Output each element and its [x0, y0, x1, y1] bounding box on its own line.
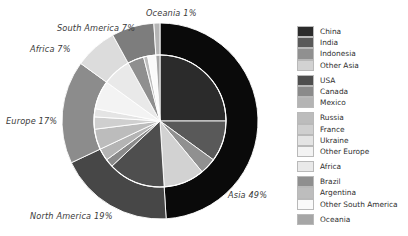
legend-group-north-america: USACanadaMexico — [297, 75, 405, 109]
legend-group-europe: RussiaFranceUkraineOther Europe — [297, 112, 405, 157]
legend-group-africa: Africa — [297, 161, 405, 172]
legend-label-oceania: Oceania — [320, 214, 350, 225]
legend-label-india: India — [320, 37, 338, 48]
legend-swatch-other-asia — [297, 60, 314, 71]
legend-group-asia: ChinaIndiaIndonesiaOther Asia — [297, 26, 405, 71]
callout-asia: Asia 49% — [228, 190, 267, 200]
legend-label-argentina: Argentina — [320, 187, 356, 198]
legend-label-canada: Canada — [320, 86, 348, 97]
legend-label-brazil: Brazil — [320, 176, 341, 187]
legend-swatch-usa — [297, 75, 314, 86]
legend-swatch-other-europe — [297, 146, 314, 157]
legend-group-south-america: BrazilArgentinaOther South America — [297, 176, 405, 210]
callout-africa: Africa 7% — [30, 44, 71, 54]
legend-label-russia: Russia — [320, 112, 344, 123]
legend-swatch-mexico — [297, 97, 314, 108]
legend-item-argentina[interactable]: Argentina — [297, 187, 405, 198]
legend-item-other-europe[interactable]: Other Europe — [297, 146, 405, 157]
inner-ring-countries — [94, 55, 226, 187]
pie-chart: Oceania 1% South America 7% Africa 7% Eu… — [0, 0, 290, 236]
callout-north-america: North America 19% — [30, 211, 113, 221]
chart-page: Oceania 1% South America 7% Africa 7% Eu… — [0, 0, 408, 236]
legend-item-china[interactable]: China — [297, 26, 405, 37]
callout-europe: Europe 17% — [6, 116, 57, 126]
legend-item-mexico[interactable]: Mexico — [297, 97, 405, 108]
legend-label-france: France — [320, 124, 345, 135]
legend-label-usa: USA — [320, 75, 335, 86]
legend-label-ukraine: Ukraine — [320, 135, 349, 146]
legend-swatch-russia — [297, 112, 314, 123]
legend-label-mexico: Mexico — [320, 97, 346, 108]
legend-item-usa[interactable]: USA — [297, 75, 405, 86]
legend-item-ukraine[interactable]: Ukraine — [297, 135, 405, 146]
legend-swatch-india — [297, 37, 314, 48]
legend-item-africa[interactable]: Africa — [297, 161, 405, 172]
legend-label-africa: Africa — [320, 161, 341, 172]
legend-label-other-europe: Other Europe — [320, 146, 369, 157]
legend-group-oceania: Oceania — [297, 214, 405, 225]
legend-item-oceania[interactable]: Oceania — [297, 214, 405, 225]
legend-item-russia[interactable]: Russia — [297, 112, 405, 123]
legend-swatch-france — [297, 124, 314, 135]
callout-oceania: Oceania 1% — [146, 8, 197, 18]
legend-item-indonesia[interactable]: Indonesia — [297, 48, 405, 59]
legend-item-canada[interactable]: Canada — [297, 86, 405, 97]
legend-label-china: China — [320, 26, 341, 37]
callout-south-america: South America 7% — [57, 23, 135, 33]
legend-swatch-argentina — [297, 187, 314, 198]
legend-swatch-oceania — [297, 214, 314, 225]
legend-swatch-canada — [297, 86, 314, 97]
legend-swatch-indonesia — [297, 48, 314, 59]
legend-label-other-south-america: Other South America — [320, 199, 398, 210]
legend-item-france[interactable]: France — [297, 124, 405, 135]
chart-legend: ChinaIndiaIndonesiaOther AsiaUSACanadaMe… — [297, 26, 405, 225]
legend-swatch-ukraine — [297, 135, 314, 146]
legend-swatch-other-south-america — [297, 199, 314, 210]
legend-item-other-south-america[interactable]: Other South America — [297, 199, 405, 210]
legend-label-other-asia: Other Asia — [320, 60, 359, 71]
legend-item-other-asia[interactable]: Other Asia — [297, 60, 405, 71]
legend-swatch-china — [297, 26, 314, 37]
legend-item-brazil[interactable]: Brazil — [297, 176, 405, 187]
legend-label-indonesia: Indonesia — [320, 48, 356, 59]
legend-item-india[interactable]: India — [297, 37, 405, 48]
legend-swatch-africa — [297, 161, 314, 172]
legend-swatch-brazil — [297, 176, 314, 187]
